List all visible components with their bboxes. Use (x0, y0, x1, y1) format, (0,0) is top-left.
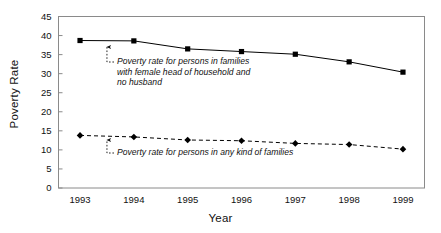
y-tick-label: 45 (41, 11, 52, 22)
annotation-any-kind-of-families: Poverty rate for persons in any kind of … (117, 147, 367, 158)
x-tick-label: 1998 (339, 194, 360, 205)
data-point-marker (185, 46, 190, 51)
data-point-marker (400, 70, 405, 75)
x-tick-label: 1999 (392, 194, 413, 205)
chart-canvas: 051015202530354045 199319941995199619971… (0, 0, 441, 233)
annotation-female-head-of-household: Poverty rate for persons in families wit… (117, 56, 332, 88)
plot-frame (59, 17, 425, 189)
y-tick-label: 25 (41, 87, 52, 98)
data-point-marker (77, 38, 82, 43)
y-tick-label: 10 (41, 144, 52, 155)
y-tick-label: 30 (41, 68, 52, 79)
data-point-marker (131, 38, 136, 43)
y-tick-label: 40 (41, 30, 52, 41)
poverty-rate-line-chart: 051015202530354045 199319941995199619971… (0, 0, 441, 233)
y-tick-label: 0 (46, 182, 51, 193)
y-tick-label: 5 (46, 163, 51, 174)
x-tick-label: 1996 (231, 194, 252, 205)
x-axis-title: Year (0, 212, 441, 224)
x-tick-label: 1994 (123, 194, 144, 205)
x-axis-ticks: 1993199419951996199719981999 (69, 194, 413, 205)
y-axis-title: Poverty Rate (8, 49, 20, 139)
x-tick-label: 1997 (285, 194, 306, 205)
y-tick-label: 35 (41, 49, 52, 60)
x-tick-label: 1995 (177, 194, 198, 205)
data-point-marker (239, 49, 244, 54)
y-tick-label: 15 (41, 125, 52, 136)
y-tick-label: 20 (41, 106, 52, 117)
data-point-marker (347, 59, 352, 64)
x-tick-label: 1993 (69, 194, 90, 205)
